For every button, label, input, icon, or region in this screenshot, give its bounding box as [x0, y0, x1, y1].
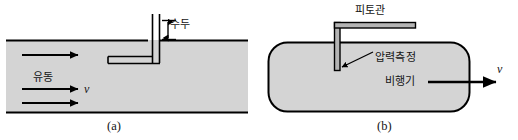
pitot-tube-probe [335, 23, 416, 29]
label-aircraft: 비행기 [385, 76, 416, 87]
caption-panel-a: (a) [107, 120, 121, 133]
figure-container: 수두 유동 v 피토관 압력측정 비행기 v (a) (b) [0, 0, 518, 140]
caption-panel-b: (b) [377, 120, 392, 133]
label-velocity-panel-b: v [497, 63, 502, 75]
aircraft-body [269, 43, 470, 112]
label-velocity-panel-a: v [84, 83, 89, 95]
label-pitot-tube: 피토관 [355, 5, 386, 16]
label-pressure-measurement: 압력측정 [375, 52, 416, 63]
panel-b-group [269, 23, 497, 112]
label-flow: 유동 [33, 72, 53, 83]
figure-drawing [0, 0, 518, 140]
label-head: 수두 [170, 19, 190, 30]
panel-a-group [6, 14, 248, 113]
pitot-tube-stem [335, 23, 341, 71]
